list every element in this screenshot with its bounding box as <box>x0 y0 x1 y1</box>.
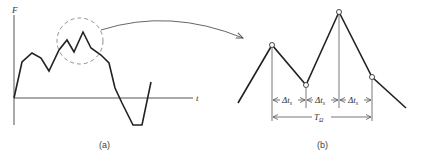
interval-label: Δts <box>281 95 293 106</box>
highlight-circle <box>57 18 103 64</box>
sample-point <box>370 75 375 80</box>
sample-point <box>337 10 342 15</box>
sample-point <box>304 83 309 88</box>
period-label: TΩ <box>314 112 324 123</box>
interval-label: Δts <box>314 95 326 106</box>
caption-b: (b) <box>317 140 328 150</box>
interval-label: Δts <box>347 95 359 106</box>
interval-2: Δts <box>307 95 338 106</box>
sample-point <box>270 43 275 48</box>
caption-a: (a) <box>99 140 110 150</box>
sampled-curve <box>238 12 406 108</box>
y-axis-label: F <box>11 5 18 15</box>
diagram-canvas: F t (a) Δts Δts Δts <box>0 0 421 155</box>
force-curve <box>14 32 151 125</box>
x-axis-label: t <box>196 93 199 103</box>
panel-b: Δts Δts Δts TΩ (b) <box>238 10 406 151</box>
period-dimension: TΩ <box>273 112 371 123</box>
connector-arrow <box>101 21 243 38</box>
interval-3: Δts <box>340 95 371 106</box>
panel-a: F t (a) <box>11 5 199 150</box>
interval-1: Δts <box>273 95 305 106</box>
